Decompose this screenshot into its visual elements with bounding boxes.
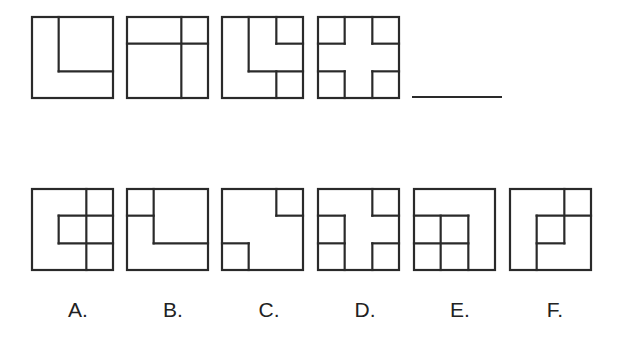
option-d-figure[interactable] (317, 188, 400, 271)
option-f-label[interactable]: F. (525, 299, 585, 321)
figure-grid (126, 16, 209, 99)
figure-border (318, 17, 399, 98)
figure-border (32, 189, 113, 270)
figure-grid (317, 16, 400, 99)
option-a-figure[interactable] (31, 188, 114, 271)
figure-border (127, 189, 208, 270)
option-c-label[interactable]: C. (239, 299, 299, 321)
answer-blank (412, 96, 502, 98)
figure-grid (221, 188, 304, 271)
figure-grid (509, 188, 592, 271)
figure-border (222, 17, 303, 98)
option-d-label[interactable]: D. (335, 299, 395, 321)
option-b-label[interactable]: B. (143, 299, 203, 321)
figure-grid (126, 188, 209, 271)
figure-grid (413, 188, 496, 271)
figure-grid (31, 16, 114, 99)
sequence-figure-4 (317, 16, 400, 99)
option-f-figure[interactable] (509, 188, 592, 271)
figure-border (510, 189, 591, 270)
option-e-figure[interactable] (413, 188, 496, 271)
figure-border (32, 17, 113, 98)
option-e-label[interactable]: E. (430, 299, 490, 321)
option-c-figure[interactable] (221, 188, 304, 271)
option-a-label[interactable]: A. (48, 299, 108, 321)
sequence-figure-1 (31, 16, 114, 99)
figure-grid (317, 188, 400, 271)
figure-grid (221, 16, 304, 99)
figure-border (222, 189, 303, 270)
figure-border (318, 189, 399, 270)
option-b-figure[interactable] (126, 188, 209, 271)
figure-border (127, 17, 208, 98)
figure-grid (31, 188, 114, 271)
figure-border (414, 189, 495, 270)
sequence-figure-2 (126, 16, 209, 99)
sequence-figure-3 (221, 16, 304, 99)
